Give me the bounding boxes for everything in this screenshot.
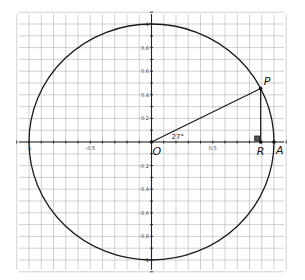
label-A: A [275, 144, 284, 157]
right-angle-marker [255, 136, 260, 141]
y-tick-label: 0.4 [141, 92, 149, 98]
point-O [150, 140, 154, 144]
label-R: R [257, 145, 265, 158]
y-tick-label: -0.6 [139, 210, 149, 216]
x-tick-label: 0.5 [209, 145, 217, 151]
angle-label: 27° [172, 133, 184, 141]
x-tick-label: -0.5 [85, 145, 95, 151]
point-R [259, 140, 263, 144]
label-P: P [264, 75, 271, 88]
y-tick-label: -0.4 [139, 186, 149, 192]
unit-circle-diagram: -1-0.50.510.80.60.40.2-0.2-0.4-0.6-0.8-1… [0, 0, 305, 280]
diagram-canvas: -1-0.50.510.80.60.40.2-0.2-0.4-0.6-0.8-1… [0, 0, 305, 280]
y-tick-label: 0.6 [141, 68, 149, 74]
label-O: O [153, 145, 162, 158]
y-tick-label: -0.8 [139, 233, 149, 239]
y-tick-label: -0.2 [139, 163, 149, 169]
y-tick-label: 0.2 [141, 115, 149, 121]
segment-OP [152, 88, 261, 142]
point-labels: OPRA27° [153, 75, 284, 158]
point-P [259, 87, 263, 91]
y-tick-label: 0.8 [141, 45, 149, 51]
